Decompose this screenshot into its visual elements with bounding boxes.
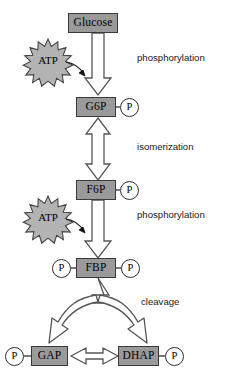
process-label-isomerization: isomerization	[137, 142, 194, 152]
arrow-f6p-to-fbp	[85, 200, 111, 258]
metabolite-box-glucose[interactable]: Glucose	[68, 13, 118, 33]
glycolysis-diagram: ATP ATP Glucose G6P F6P FBP GAP DHAP P P…	[0, 0, 227, 383]
metabolite-box-fbp[interactable]: FBP	[76, 258, 116, 278]
phosphate-circle-gap[interactable]: P	[5, 347, 24, 366]
metabolite-box-gap[interactable]: GAP	[31, 346, 68, 366]
phosphate-circle-fbp-right[interactable]: P	[121, 259, 140, 278]
atp-pointer-1-head	[79, 70, 85, 76]
arrow-cleavage-left-branch	[49, 295, 98, 343]
process-label-phosphorylation-2: phosphorylation	[137, 210, 205, 220]
phosphate-circle-fbp-left[interactable]: P	[52, 259, 71, 278]
metabolite-box-dhap[interactable]: DHAP	[118, 346, 159, 366]
phosphate-circle-dhap[interactable]: P	[165, 347, 184, 366]
arrow-glucose-to-g6p	[85, 33, 111, 95]
atp-star-1	[23, 39, 72, 86]
arrow-cleavage-right-branch	[98, 295, 147, 343]
metabolite-box-g6p[interactable]: G6P	[76, 97, 116, 117]
process-label-phosphorylation-1: phosphorylation	[137, 53, 205, 63]
arrow-gap-dhap-reversible	[71, 348, 118, 364]
atp-star-2	[23, 196, 72, 243]
process-label-cleavage: cleavage	[141, 297, 179, 307]
phosphate-circle-f6p[interactable]: P	[120, 181, 139, 200]
atp-pointer-2-head	[79, 227, 85, 233]
metabolite-box-f6p[interactable]: F6P	[76, 180, 116, 200]
arrow-g6p-f6p-reversible	[86, 118, 110, 180]
phosphate-circle-g6p[interactable]: P	[120, 98, 139, 117]
